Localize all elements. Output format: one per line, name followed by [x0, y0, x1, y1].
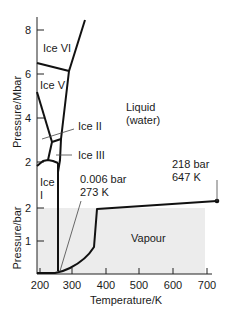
x-tick-label: 200 [31, 279, 49, 291]
y-tick-label: 2 [25, 202, 31, 214]
critical-point-pressure: 218 bar [172, 158, 210, 170]
region-label-ice-v: Ice V [40, 79, 66, 91]
x-axis-title: Temperature/K [90, 294, 163, 306]
x-tick-label: 300 [63, 279, 81, 291]
triple-point-temperature: 273 K [80, 186, 109, 198]
region-label-liquid-water: (water) [126, 114, 160, 126]
y-axis-title-lower: Pressure/bar [11, 206, 23, 269]
region-label-ice-ii: Ice II [78, 120, 102, 132]
x-tick-label: 400 [97, 279, 115, 291]
phase-diagram: 8 6 4 2 2 1 200 300 400 500 600 700 Temp… [0, 0, 225, 316]
y-tick-label: 8 [25, 24, 31, 36]
critical-point-temperature: 647 K [172, 171, 201, 183]
y-axis-title-upper: Pressure/Mbar [11, 76, 23, 148]
y-tick-label: 2 [25, 156, 31, 168]
triple-point-pressure: 0.006 bar [80, 173, 127, 185]
x-tick-label: 500 [130, 279, 148, 291]
region-label-vapour: Vapour [131, 232, 166, 244]
y-tick-label: 1 [25, 235, 31, 247]
x-tick-label: 700 [198, 279, 216, 291]
region-label-ice-i: Ice [40, 176, 55, 188]
region-label-ice-i-numeral: I [40, 189, 43, 201]
x-tick-label: 600 [164, 279, 182, 291]
y-tick-label: 4 [25, 112, 31, 124]
region-label-liquid: Liquid [126, 101, 155, 113]
y-tick-label: 6 [25, 68, 31, 80]
region-label-ice-vi: Ice VI [43, 42, 71, 54]
region-label-ice-iii: Ice III [78, 149, 105, 161]
